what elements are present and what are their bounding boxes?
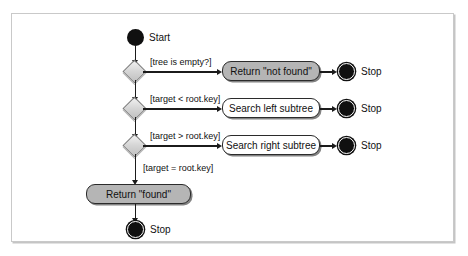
start-node-label: Start [149, 32, 170, 43]
guard-label-tree-empty: [tree is empty?] [150, 57, 212, 67]
action-search-right-subtree[interactable]: Search right subtree [222, 135, 320, 155]
stop-node-2-label: Stop [361, 103, 382, 114]
stop-node-4-label: Stop [150, 224, 171, 235]
arrowhead-action-3-to-stop-3 [332, 143, 337, 149]
action-return-found[interactable]: Return "found" [86, 184, 191, 204]
diagram-frame: Start [tree is empty?] Return "not found… [11, 13, 454, 242]
guard-label-target-greater: [target > root.key] [150, 131, 220, 141]
stop-node-3[interactable] [338, 137, 355, 154]
action-return-not-found[interactable]: Return "not found" [222, 61, 320, 81]
connector-decision-2-to-action-2 [143, 108, 219, 109]
diagram-canvas: Start [tree is empty?] Return "not found… [0, 0, 468, 256]
start-node[interactable] [127, 29, 144, 46]
stop-node-4[interactable] [127, 221, 144, 238]
guard-label-target-less: [target < root.key] [150, 94, 220, 104]
action-return-not-found-label: Return "not found" [230, 66, 312, 77]
connector-decision-3-to-action-4 [135, 154, 136, 183]
action-search-right-subtree-label: Search right subtree [226, 140, 316, 151]
stop-node-3-label: Stop [361, 140, 382, 151]
stop-node-1[interactable] [338, 63, 355, 80]
connector-decision-3-to-action-3 [143, 145, 219, 146]
stop-node-1-label: Stop [361, 66, 382, 77]
stop-node-2[interactable] [338, 100, 355, 117]
action-return-found-label: Return "found" [106, 189, 171, 200]
connector-decision-1-to-action-1 [143, 71, 219, 72]
arrowhead-action-1-to-stop-1 [332, 69, 337, 75]
action-search-left-subtree-label: Search left subtree [229, 103, 313, 114]
guard-label-target-equal: [target = root.key] [143, 163, 213, 173]
action-search-left-subtree[interactable]: Search left subtree [222, 98, 320, 118]
arrowhead-action-2-to-stop-2 [332, 106, 337, 112]
